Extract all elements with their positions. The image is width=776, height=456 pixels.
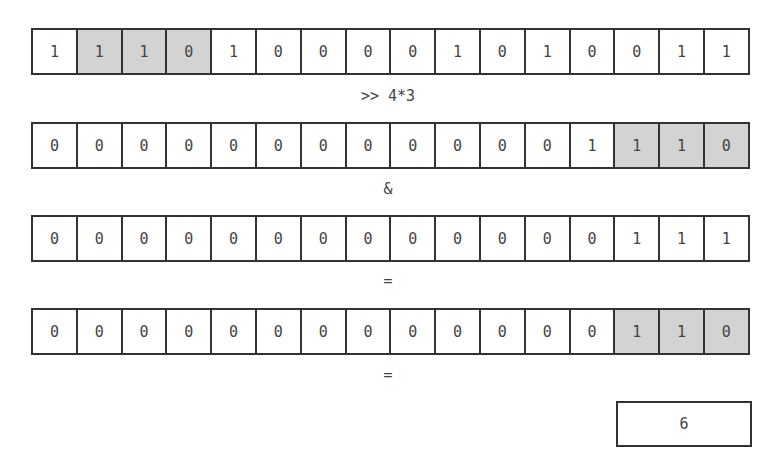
bit-cell: 0 [33, 124, 78, 167]
bit-cell: 0 [481, 124, 526, 167]
bit-cell: 0 [705, 310, 750, 353]
equals-operator-1: = [0, 272, 776, 290]
bit-cell: 0 [78, 310, 123, 353]
bit-cell: 0 [302, 217, 347, 260]
bit-cell: 0 [212, 217, 257, 260]
bit-cell: 0 [167, 217, 212, 260]
bit-cell: 0 [391, 30, 436, 73]
bit-cell: 0 [481, 30, 526, 73]
bit-cell: 1 [705, 217, 750, 260]
bit-cell: 0 [302, 124, 347, 167]
bit-cell: 0 [391, 124, 436, 167]
bit-cell: 1 [615, 310, 660, 353]
bit-cell: 0 [167, 310, 212, 353]
bit-cell: 0 [347, 310, 392, 353]
bit-cell: 1 [123, 30, 168, 73]
bit-cell: 0 [347, 124, 392, 167]
equals-operator-2: = [0, 366, 776, 384]
bit-cell: 0 [123, 310, 168, 353]
bit-cell: 0 [257, 217, 302, 260]
bit-cell: 1 [436, 30, 481, 73]
bit-cell: 0 [526, 124, 571, 167]
bit-cell: 1 [212, 30, 257, 73]
bit-cell: 1 [705, 30, 750, 73]
bit-row-masked: 0000000000000110 [31, 308, 750, 355]
bit-cell: 0 [78, 124, 123, 167]
bit-cell: 0 [33, 217, 78, 260]
bit-cell: 0 [481, 217, 526, 260]
bit-cell: 0 [391, 217, 436, 260]
bit-cell: 0 [123, 124, 168, 167]
bit-cell: 0 [481, 310, 526, 353]
bit-cell: 1 [615, 217, 660, 260]
bit-cell: 1 [660, 124, 705, 167]
result-box: 6 [616, 401, 752, 447]
bit-cell: 0 [257, 124, 302, 167]
bit-row-mask: 0000000000000111 [31, 215, 750, 262]
bit-cell: 1 [660, 30, 705, 73]
bit-cell: 0 [302, 30, 347, 73]
bit-cell: 1 [571, 124, 616, 167]
bit-cell: 0 [123, 217, 168, 260]
bit-cell: 0 [78, 217, 123, 260]
bit-cell: 0 [257, 30, 302, 73]
bit-cell: 0 [33, 310, 78, 353]
bit-cell: 0 [347, 217, 392, 260]
bit-cell: 0 [571, 217, 616, 260]
bit-cell: 0 [571, 30, 616, 73]
bit-cell: 1 [526, 30, 571, 73]
bit-cell: 1 [78, 30, 123, 73]
bit-cell: 1 [660, 217, 705, 260]
bit-cell: 0 [436, 310, 481, 353]
bit-row-value: 1110100001010011 [31, 28, 750, 75]
bit-cell: 0 [391, 310, 436, 353]
bit-cell: 0 [257, 310, 302, 353]
bit-cell: 0 [167, 30, 212, 73]
bit-cell: 0 [571, 310, 616, 353]
bit-cell: 0 [347, 30, 392, 73]
shift-operator: >> 4*3 [0, 87, 776, 105]
bit-cell: 0 [212, 310, 257, 353]
bit-cell: 1 [615, 124, 660, 167]
bit-cell: 1 [33, 30, 78, 73]
bit-cell: 0 [167, 124, 212, 167]
bit-cell: 0 [526, 310, 571, 353]
bit-row-shifted: 0000000000001110 [31, 122, 750, 169]
bit-cell: 0 [212, 124, 257, 167]
and-operator: & [0, 180, 776, 198]
bit-cell: 0 [436, 124, 481, 167]
bit-cell: 0 [526, 217, 571, 260]
bit-cell: 0 [615, 30, 660, 73]
bit-cell: 0 [302, 310, 347, 353]
bit-cell: 0 [436, 217, 481, 260]
bit-cell: 1 [660, 310, 705, 353]
bit-cell: 0 [705, 124, 750, 167]
